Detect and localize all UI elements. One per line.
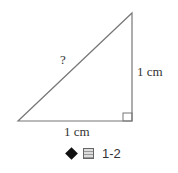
figure-char-icon [83,148,94,159]
horizontal-side-label: 1 cm [64,124,90,140]
diamond-icon [65,147,78,160]
triangle [18,13,132,121]
vertical-side-label: 1 cm [137,64,163,80]
caption-text: 1-2 [102,146,121,161]
figure-caption: 1-2 [67,146,121,161]
hypotenuse-label: ? [60,52,66,68]
right-angle-marker [123,113,132,121]
